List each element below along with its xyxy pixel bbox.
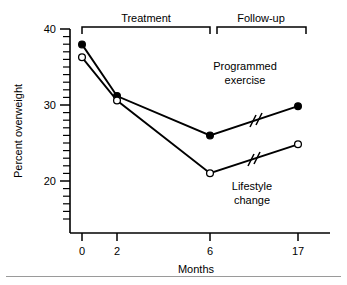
annotation-line-1: Programmed (213, 60, 277, 72)
phase-bracket-followup: Follow-up (217, 12, 306, 34)
annotation-line-2: change (234, 194, 270, 206)
data-point-marker (295, 103, 302, 110)
data-point-marker (114, 97, 121, 104)
lifestyle-change-line (82, 57, 298, 173)
x-axis: 0 2 6 17 Months (70, 233, 330, 275)
data-point-marker (79, 54, 86, 61)
annotation-programmed-exercise: Programmed exercise (213, 60, 277, 86)
line-chart: Treatment Follow-up (0, 0, 347, 285)
phase-bracket-treatment: Treatment (82, 12, 210, 34)
y-tick-label-30: 30 (44, 99, 56, 111)
annotation-line-2: exercise (225, 74, 266, 86)
y-tick-label-20: 20 (44, 175, 56, 187)
x-tick-label-6: 6 (207, 245, 213, 257)
annotation-lifestyle-change: Lifestyle change (232, 180, 272, 206)
y-axis: 40 30 20 Percent overweight (12, 23, 70, 233)
x-tick-label-2: 2 (114, 245, 120, 257)
data-point-marker (295, 141, 302, 148)
x-tick-label-0: 0 (79, 245, 85, 257)
y-tick-label-40: 40 (44, 23, 56, 35)
data-point-marker (207, 170, 214, 177)
treatment-bracket-path (82, 27, 210, 34)
followup-bracket-path (217, 27, 306, 34)
annotation-line-1: Lifestyle (232, 180, 272, 192)
x-tick-label-17: 17 (292, 245, 304, 257)
data-point-marker (207, 132, 214, 139)
followup-bracket-label: Follow-up (237, 12, 285, 24)
programmed-exercise-line (82, 44, 298, 135)
data-point-marker (79, 41, 86, 48)
x-axis-title: Months (178, 263, 215, 275)
treatment-bracket-label: Treatment (121, 12, 171, 24)
chart-figure: Treatment Follow-up (0, 0, 347, 285)
series-programmed-exercise (79, 41, 302, 139)
y-axis-title: Percent overweight (12, 84, 24, 178)
footer-divider (6, 276, 341, 277)
